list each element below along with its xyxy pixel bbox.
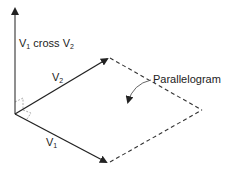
v2-label: V2 xyxy=(52,72,63,84)
callout-arrow xyxy=(128,80,151,102)
parallelogram-label: Parallelogram xyxy=(153,74,221,85)
cross-product-label: V1 cross V2 xyxy=(19,38,74,50)
v1-label: V1 xyxy=(46,137,57,149)
v1-vector xyxy=(15,114,106,162)
v2-vector xyxy=(15,59,107,114)
parallelogram-edge-bottom xyxy=(110,110,202,162)
